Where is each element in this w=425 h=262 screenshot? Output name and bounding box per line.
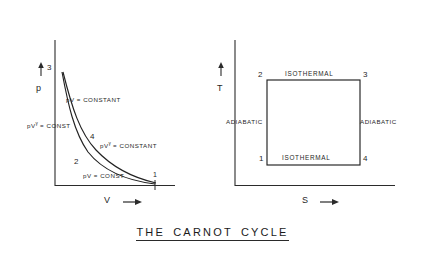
pv-point-1-label: 1 — [153, 171, 157, 178]
pv-point-2-label: 2 — [74, 158, 78, 166]
pv-y-axis-arrow-icon — [38, 62, 44, 76]
adiabatic-curve-3-2-1 — [62, 72, 155, 184]
figure-caption: THE CARNOT CYCLE — [0, 222, 425, 241]
adiabatic-upper-suffix: = CONST — [38, 122, 71, 129]
isotherm-upper-prefix: pV — [66, 96, 75, 103]
ts-corner-1-label: 1 — [259, 155, 263, 163]
isotherm-lower-suffix: = CONST — [92, 172, 125, 179]
ts-x-axis-label: S — [302, 196, 309, 205]
adiabatic-lower-prefix: pV — [100, 142, 109, 149]
carnot-cycle-figure: p V 3 4 2 1 pV = CONSTANT pVγ = CONST pV… — [0, 0, 425, 262]
pv-diagram-svg — [0, 0, 212, 222]
pressure-volume-diagram: p V 3 4 2 1 pV = CONSTANT pVγ = CONST pV… — [0, 0, 212, 222]
ts-diagram-svg — [212, 0, 425, 222]
isotherm-lower-annotation: pV = CONST — [83, 173, 124, 179]
carnot-cycle-rectangle — [267, 80, 360, 165]
adiabatic-upper-annotation: pVγ = CONST — [27, 122, 71, 129]
pv-x-axis-arrow-icon — [123, 199, 142, 205]
isotherm-upper-annotation: pV = CONSTANT — [66, 97, 121, 103]
ts-y-axis-arrow-icon — [218, 62, 224, 76]
ts-corner-4-label: 4 — [363, 155, 367, 163]
pv-point-4-label: 4 — [90, 133, 94, 141]
ts-x-axis-arrow-icon — [320, 199, 339, 205]
adiabatic-upper-prefix: pV — [27, 122, 36, 129]
isotherm-curve-3-4-1 — [63, 72, 156, 183]
isotherm-lower-prefix: pV — [83, 172, 92, 179]
adiabatic-lower-suffix: = CONSTANT — [111, 142, 157, 149]
ts-bottom-edge-label: ISOTHERMAL — [282, 155, 331, 161]
pv-point-3-label: 3 — [47, 64, 51, 72]
isotherm-upper-suffix: = CONSTANT — [75, 96, 121, 103]
ts-y-axis-label: T — [217, 84, 223, 93]
figure-title: THE CARNOT CYCLE — [136, 226, 288, 241]
pv-x-axis-label: V — [104, 196, 111, 205]
ts-corner-3-label: 3 — [363, 71, 367, 79]
pv-y-axis-label: p — [36, 84, 42, 93]
ts-left-edge-label: ADIABATIC — [226, 119, 263, 125]
ts-right-edge-label: ADIABATIC — [360, 119, 397, 125]
ts-top-edge-label: ISOTHERMAL — [285, 71, 334, 77]
ts-corner-2-label: 2 — [258, 71, 262, 79]
temperature-entropy-diagram: T S 2 3 1 4 ISOTHERMAL ISOTHERMAL ADIABA… — [212, 0, 425, 222]
adiabatic-lower-annotation: pVγ = CONSTANT — [100, 142, 157, 149]
